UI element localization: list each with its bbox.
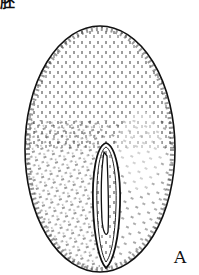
seed-illustration (0, 0, 199, 275)
panel-label: A (174, 248, 186, 266)
